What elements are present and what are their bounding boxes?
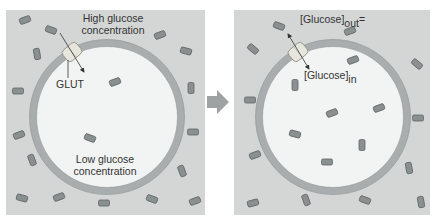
glut-label: GLUT bbox=[50, 78, 90, 90]
glucose-in-text: [Glucose] bbox=[304, 69, 348, 81]
low-glucose-line1: Low glucose bbox=[60, 153, 150, 165]
low-glucose-line2: concentration bbox=[60, 165, 150, 177]
glucose-in-label: [Glucose]in bbox=[304, 69, 357, 81]
glut-diagram bbox=[0, 0, 436, 222]
high-glucose-line2: concentration bbox=[68, 24, 158, 36]
right-arrow-icon bbox=[207, 90, 229, 114]
glucose-out-text: [Glucose] bbox=[300, 13, 344, 25]
glucose-out-label: [Glucose]out= bbox=[300, 13, 365, 25]
equals-sign: = bbox=[359, 13, 365, 25]
low-glucose-label: Low glucose concentration bbox=[60, 153, 150, 177]
cell-membrane bbox=[259, 43, 407, 191]
glucose-out-subscript: out bbox=[344, 17, 359, 29]
left-panel bbox=[6, 10, 205, 215]
right-panel bbox=[234, 10, 430, 215]
high-glucose-label: High glucose concentration bbox=[68, 12, 158, 36]
glucose-in-subscript: in bbox=[348, 73, 356, 85]
high-glucose-line1: High glucose bbox=[68, 12, 158, 24]
